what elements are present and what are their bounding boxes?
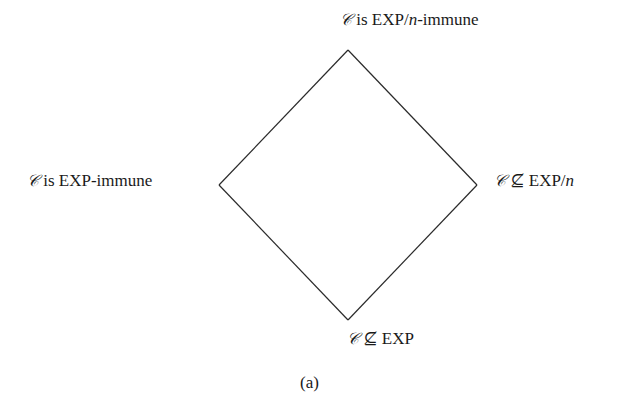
edge-top-left — [219, 50, 348, 185]
node-top: 𝒞 is EXP/n-immune — [340, 10, 479, 30]
node-bottom: 𝒞 ⊈ EXP — [347, 329, 414, 349]
edge-left-bottom — [219, 185, 348, 320]
edge-top-right — [348, 50, 477, 185]
node-left: 𝒞 is EXP-immune — [27, 171, 152, 191]
class-symbol: 𝒞 — [340, 10, 352, 29]
figure-caption: (a) — [300, 373, 319, 393]
node-right: 𝒞 ⊈ EXP/n — [494, 171, 574, 191]
diamond-edges — [0, 0, 629, 417]
class-symbol: 𝒞 — [347, 329, 359, 348]
class-symbol: 𝒞 — [27, 171, 39, 190]
class-symbol: 𝒞 — [494, 171, 506, 190]
edge-right-bottom — [348, 185, 477, 320]
